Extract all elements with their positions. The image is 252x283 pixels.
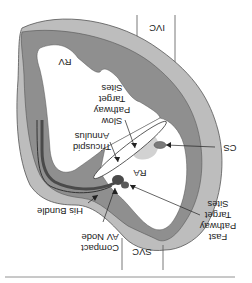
cs-ostium: [154, 142, 166, 149]
heart-anatomy-diagram: IVC RV Slow Pathway Target Sites Tricusp…: [0, 0, 252, 283]
fast-pathway-label-line-1: Fast: [208, 232, 227, 243]
slow-pathway-label-line-2: Pathway: [94, 105, 131, 116]
slow-pathway-label-line-1: Slow: [102, 116, 123, 127]
fast-pathway-node: [121, 182, 129, 189]
fast-pathway-label-line-2: Pathway: [200, 221, 237, 232]
slow-pathway-label-line-4: Sites: [101, 83, 122, 94]
ivc-label: IVC: [149, 23, 165, 34]
his-bundle-label: His Bundle: [37, 206, 83, 217]
compact-av-node-label-line-2: AV Node: [81, 232, 118, 243]
tricuspid-annulus-label-line-1: Tricuspid: [73, 142, 111, 153]
svc-label: SVC: [132, 247, 152, 258]
tricuspid-annulus-label-line-2: Annulus: [75, 131, 110, 142]
fast-pathway-label-line-3: Target: [204, 210, 231, 221]
compact-av-node-label-line-1: Compact: [81, 243, 119, 254]
ra-label: RA: [133, 168, 147, 179]
rv-label: RV: [58, 57, 72, 68]
slow-pathway-label-line-3: Target: [98, 94, 125, 105]
fast-pathway-label-line-4: Sites: [207, 199, 228, 210]
cs-label: CS: [223, 143, 236, 154]
